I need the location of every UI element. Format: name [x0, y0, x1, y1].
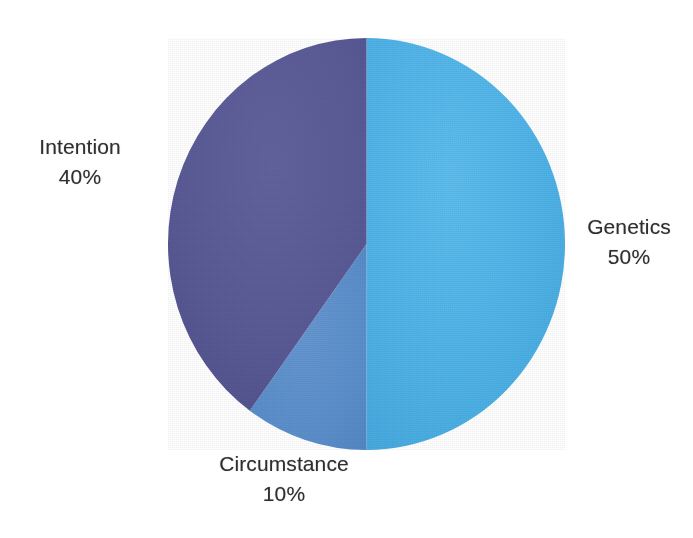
pie-slice-genetics [367, 38, 566, 450]
pie-chart-figure: Intention 40% Genetics 50% Circumstance … [0, 0, 693, 538]
pie-label-genetics-value: 50% [568, 242, 690, 272]
pie-label-genetics: Genetics 50% [568, 212, 690, 272]
pie-svg [168, 38, 565, 450]
pie-chart-graphic [168, 38, 565, 450]
pie-label-circumstance-value: 10% [196, 479, 372, 509]
pie-label-circumstance-name: Circumstance [196, 449, 372, 479]
pie-label-intention-name: Intention [0, 132, 160, 162]
pie-label-circumstance: Circumstance 10% [196, 449, 372, 509]
pie-label-intention-value: 40% [0, 162, 160, 192]
pie-label-intention: Intention 40% [0, 132, 160, 192]
pie-label-genetics-name: Genetics [568, 212, 690, 242]
